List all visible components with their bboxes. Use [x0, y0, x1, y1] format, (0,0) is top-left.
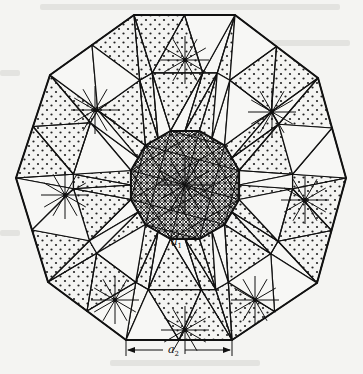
quasicrystal-tiling-diagram [0, 0, 363, 374]
a1-label: a1 [171, 236, 182, 250]
a1-label-sub: 1 [178, 242, 182, 250]
a2-label-sub: 2 [175, 350, 179, 358]
a2-label: a2 [168, 344, 179, 358]
inner-dense-dodecagon [131, 131, 239, 239]
